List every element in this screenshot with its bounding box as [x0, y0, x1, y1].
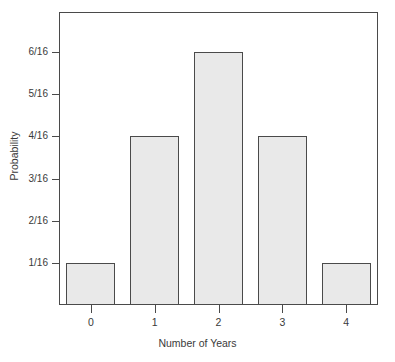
y-axis-tick-label: 2/16	[0, 216, 48, 226]
y-axis-title: Probability	[8, 101, 20, 211]
y-axis-tick-label: 6/16	[0, 47, 48, 57]
y-axis-tick-label: 1/16	[0, 258, 48, 268]
x-axis-tick-label: 2	[199, 316, 239, 328]
y-axis-tick	[52, 136, 59, 137]
y-axis-tick	[52, 263, 59, 264]
bar	[130, 136, 179, 305]
plot-area	[59, 12, 378, 305]
bar	[194, 52, 243, 305]
bar	[322, 263, 371, 305]
x-axis-tick-label: 1	[135, 316, 175, 328]
bar	[66, 263, 115, 305]
x-axis-tick-label: 3	[262, 316, 302, 328]
x-axis-tick	[219, 305, 220, 313]
y-axis-tick	[52, 52, 59, 53]
y-axis-tick-label: 5/16	[0, 89, 48, 99]
x-axis-tick	[282, 305, 283, 313]
x-axis-tick	[155, 305, 156, 313]
y-axis-tick	[52, 94, 59, 95]
y-axis-tick	[52, 179, 59, 180]
x-axis-title: Number of Years	[0, 337, 395, 349]
x-axis-tick-label: 0	[71, 316, 111, 328]
x-axis-tick	[91, 305, 92, 313]
y-axis-tick	[52, 221, 59, 222]
x-axis-tick-label: 4	[326, 316, 366, 328]
x-axis-tick	[346, 305, 347, 313]
bar	[258, 136, 307, 305]
probability-bar-chart: 1/162/163/164/165/166/16 01234 Probabili…	[0, 0, 395, 362]
